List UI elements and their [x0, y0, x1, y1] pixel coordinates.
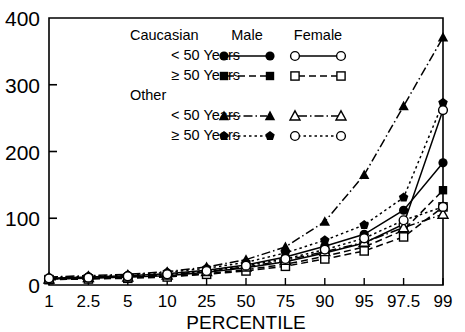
marker-open-circle [123, 272, 132, 281]
marker-filled-triangle [398, 101, 408, 111]
marker-filled-triangle [320, 216, 330, 226]
marker-open-circle [337, 52, 346, 61]
marker-open-circle [439, 106, 448, 115]
legend-row-caucasian-over-50: ≥ 50 Years [172, 67, 240, 83]
marker-open-circle [320, 245, 329, 254]
marker-filled-pentagon [265, 131, 275, 140]
legend-group-caucasian: Caucasian [130, 27, 199, 43]
marker-filled-square [266, 72, 274, 80]
series-line [49, 103, 443, 278]
x-tick-label: 75 [276, 292, 295, 311]
chart-figure: 010020030040012.5510255075909597.599PERC… [0, 0, 465, 332]
legend-col-male: Male [231, 27, 262, 43]
marker-open-circle [281, 255, 290, 264]
x-axis: 12.5510255075909597.599PERCENTILE [44, 278, 452, 332]
legend-sample-other-over50-female [291, 132, 346, 141]
marker-open-circle [399, 216, 408, 225]
marker-open-circle [439, 203, 448, 212]
marker-open-square [291, 72, 299, 80]
legend-sample-other-under50-female [290, 111, 346, 120]
data-series [44, 98, 448, 282]
marker-filled-circle [219, 51, 228, 60]
marker-open-circle [291, 52, 300, 61]
y-tick-label: 300 [5, 74, 40, 97]
legend-row-caucasian-under-50: < 50 Years [171, 47, 240, 63]
y-tick-label: 400 [5, 7, 40, 30]
x-tick-label: 97.5 [387, 292, 420, 311]
legend-sample-caucasian-under50-female [291, 52, 346, 61]
x-tick-label: 99 [434, 292, 453, 311]
marker-open-circle [242, 261, 251, 270]
series-group [44, 32, 448, 284]
legend-sample-caucasian-over50-male [220, 72, 274, 80]
y-tick-label: 0 [28, 274, 40, 297]
plot-border [49, 18, 443, 285]
marker-filled-triangle [359, 169, 369, 179]
legend-col-female: Female [294, 27, 342, 43]
marker-filled-square [220, 72, 228, 80]
marker-open-circle [84, 273, 93, 282]
chart-canvas: 010020030040012.5510255075909597.599PERC… [0, 0, 465, 332]
marker-open-circle [360, 234, 369, 243]
series-line [49, 37, 443, 277]
marker-open-circle [337, 132, 346, 141]
plot-frame [49, 18, 443, 285]
marker-open-circle [202, 267, 211, 276]
legend-row-other-under-50: < 50 Years [171, 107, 240, 123]
x-tick-label: 1 [44, 292, 53, 311]
marker-open-circle [163, 270, 172, 279]
marker-open-square [337, 72, 345, 80]
marker-filled-pentagon [399, 193, 409, 202]
x-tick-label: 90 [315, 292, 334, 311]
marker-filled-circle [438, 158, 447, 167]
x-tick-label: 50 [237, 292, 256, 311]
marker-filled-square [439, 186, 447, 194]
data-series [44, 32, 448, 281]
x-tick-label: 10 [158, 292, 177, 311]
marker-filled-pentagon [320, 235, 330, 244]
x-axis-title: PERCENTILE [186, 312, 305, 332]
legend-group-other: Other [130, 87, 166, 103]
y-tick-label: 100 [5, 207, 40, 230]
legend-sample-caucasian-over50-female [291, 72, 345, 80]
marker-filled-circle [265, 51, 274, 60]
x-tick-label: 95 [355, 292, 374, 311]
marker-filled-pentagon [359, 220, 369, 229]
x-tick-label: 5 [123, 292, 132, 311]
marker-open-circle [45, 274, 54, 283]
marker-open-circle [291, 132, 300, 141]
legend-row-other-over-50: ≥ 50 Years [172, 127, 240, 143]
marker-filled-triangle [438, 32, 448, 42]
legend: CaucasianMaleFemale< 50 Years≥ 50 YearsO… [130, 27, 346, 143]
x-tick-label: 2.5 [77, 292, 101, 311]
x-tick-label: 25 [197, 292, 216, 311]
y-tick-label: 200 [5, 141, 40, 164]
marker-open-square [400, 233, 408, 241]
marker-open-square [360, 247, 368, 255]
